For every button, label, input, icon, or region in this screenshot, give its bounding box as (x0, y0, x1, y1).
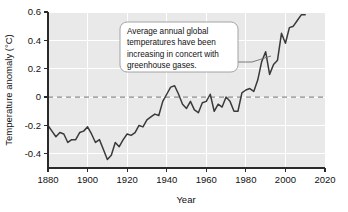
x-tick-label: 1940 (156, 174, 177, 185)
y-tick-label: 0.2 (28, 63, 41, 74)
annotation-line: Average annual global (127, 27, 209, 36)
y-tick-label: -0.4 (25, 148, 41, 159)
x-tick-label: 2020 (314, 174, 335, 185)
x-tick-label: 1880 (37, 174, 58, 185)
annotation-line: increasing in concert with (127, 50, 219, 59)
y-tick-label: 0.6 (28, 6, 41, 17)
figure-container: -0.4-0.200.20.40.6 188019001920194019601… (0, 0, 348, 212)
y-tick-label: 0.4 (28, 35, 41, 46)
x-tick-label: 1980 (235, 174, 256, 185)
annotation-line: temperatures have been (127, 38, 216, 47)
x-axis-ticks (48, 168, 325, 172)
x-tick-label: 1920 (117, 174, 138, 185)
y-tick-label: -0.2 (25, 120, 41, 131)
y-axis-title: Temperature anomaly (°C) (3, 34, 14, 146)
x-tick-label: 1960 (196, 174, 217, 185)
x-axis-title: Year (176, 194, 195, 205)
y-tick-label: 0 (36, 91, 41, 102)
annotation-line: greenhouse gases. (127, 61, 197, 70)
x-tick-label: 2000 (275, 174, 296, 185)
y-axis-tick-labels: -0.4-0.200.20.40.6 (25, 6, 41, 159)
x-axis-tick-labels: 18801900192019401960198020002020 (37, 174, 335, 185)
temperature-anomaly-chart: -0.4-0.200.20.40.6 188019001920194019601… (0, 0, 348, 212)
x-tick-label: 1900 (77, 174, 98, 185)
